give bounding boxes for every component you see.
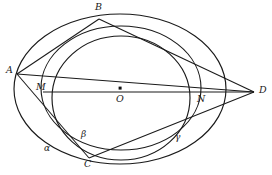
point-label-m: M [36, 82, 46, 92]
curve-label-beta: β [81, 130, 86, 139]
curve-label-gamma: γ [175, 133, 180, 142]
chord-c-d [89, 92, 254, 158]
point-label-b: B [95, 2, 102, 12]
point-label-c: C [84, 159, 91, 169]
chord-b-d [99, 19, 254, 92]
chord-a-b [17, 19, 99, 74]
center-point-o-dot [119, 87, 122, 90]
curve-label-alpha: α [44, 144, 50, 153]
point-label-d: D [259, 85, 267, 95]
point-label-n: N [197, 94, 205, 104]
geometry-figure: A B C D M N O α β γ [0, 0, 272, 175]
point-label-o: O [116, 94, 124, 104]
point-label-a: A [6, 65, 13, 75]
